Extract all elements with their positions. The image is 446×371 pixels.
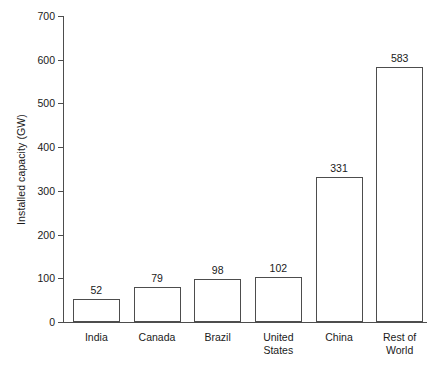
y-tick-label: 300	[37, 185, 55, 197]
y-tick-mark	[58, 147, 64, 148]
y-tick-label: 0	[49, 316, 55, 328]
bar	[376, 67, 423, 322]
bar	[316, 177, 363, 322]
x-axis-category-line: World	[360, 344, 440, 357]
bar	[255, 277, 302, 322]
bar	[134, 287, 181, 322]
y-tick-label: 700	[37, 10, 55, 22]
y-tick-mark	[58, 322, 64, 323]
bar-chart: Installed capacity (GW) 0100200300400500…	[0, 0, 446, 371]
bar-value-label: 583	[360, 52, 440, 64]
x-axis-category-line: States	[238, 344, 318, 357]
y-tick-label: 100	[37, 272, 55, 284]
x-axis-line	[63, 322, 427, 323]
y-axis-title: Installed capacity (GW)	[14, 17, 28, 322]
y-tick-mark	[58, 191, 64, 192]
y-tick-label: 400	[37, 141, 55, 153]
y-axis-line	[63, 16, 64, 322]
y-tick-mark	[58, 235, 64, 236]
y-tick-mark	[58, 60, 64, 61]
y-tick-mark	[58, 278, 64, 279]
y-tick-label: 600	[37, 54, 55, 66]
bar-value-label: 331	[299, 162, 379, 174]
y-tick-mark	[58, 103, 64, 104]
x-axis-category-label: Rest ofWorld	[360, 331, 440, 356]
plot-area: 0100200300400500600700 527998102331583 I…	[63, 16, 427, 322]
y-tick-label: 200	[37, 229, 55, 241]
x-axis-category-line: Rest of	[360, 331, 440, 344]
bar	[73, 299, 120, 322]
y-tick-mark	[58, 16, 64, 17]
y-tick-label: 500	[37, 97, 55, 109]
bar-value-label: 52	[56, 284, 136, 296]
bar-value-label: 102	[238, 262, 318, 274]
bar	[194, 279, 241, 322]
